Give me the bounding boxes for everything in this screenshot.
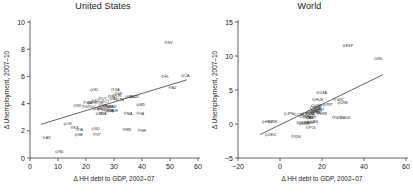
x-tick-label-0-1: 10 <box>54 163 62 170</box>
data-point: IL <box>82 105 88 109</box>
data-point-label: AUS <box>343 116 351 120</box>
data-point-label: MD <box>140 103 146 107</box>
y-tick-label-0-5: 10 <box>17 19 25 26</box>
data-point-label: HUN <box>315 98 323 102</box>
data-point-label: WI <box>77 104 81 108</box>
data-point: USA <box>317 91 328 95</box>
data-point: NE <box>75 133 83 137</box>
data-point-label: IDN <box>294 135 301 139</box>
data-point: AK <box>43 136 51 140</box>
data-point: MD <box>137 103 146 107</box>
data-point-label: ESP <box>346 44 354 48</box>
data-point-label: CO <box>134 95 140 99</box>
data-point: CA <box>182 74 190 78</box>
x-tick-label-1-2: 20 <box>318 163 326 170</box>
data-point-label: SRB <box>320 112 328 116</box>
data-point-label: VA <box>140 112 145 116</box>
data-point-label: HI <box>114 109 118 113</box>
y-tick-label-0-0: 0 <box>21 155 25 162</box>
data-point-label: CAN <box>310 120 318 124</box>
data-point: DEU <box>265 133 276 137</box>
data-point-label: IA <box>79 128 83 132</box>
y-tick-label-1-2: 5 <box>229 87 233 94</box>
data-point: NC <box>91 88 99 92</box>
data-point: WY <box>96 112 105 116</box>
x-tick-label-0-2: 20 <box>82 163 90 170</box>
data-point: VA <box>137 112 145 116</box>
data-point: MA <box>124 112 133 116</box>
data-point-label: AZ <box>172 86 177 90</box>
y-tick-label-1-0: −5 <box>225 155 233 162</box>
x-tick-label-0-4: 40 <box>138 163 146 170</box>
data-point-label: ISR <box>271 120 277 124</box>
scatter-plot-world: −200204060−5051015Δ HH debt to GDP, 2002… <box>206 0 413 196</box>
data-point: JPN <box>284 112 294 116</box>
data-point-label: NE <box>78 133 84 137</box>
x-tick-label-0-5: 50 <box>166 163 174 170</box>
data-point-label: WY <box>99 112 105 116</box>
y-tick-label-1-1: 0 <box>229 121 233 128</box>
y-tick-label-0-2: 4 <box>21 100 25 107</box>
data-point: SD <box>92 127 100 131</box>
data-point-label: FL <box>165 75 169 79</box>
data-point: VT <box>93 133 101 137</box>
data-point: NV <box>165 41 173 45</box>
x-tick-label-1-3: 40 <box>360 163 368 170</box>
data-point: FL <box>162 75 169 79</box>
y-tick-label-1-4: 15 <box>225 19 233 26</box>
figure-container: United States 01020304050600246810Δ HH d… <box>0 0 413 196</box>
x-tick-label-1-4: 60 <box>402 163 410 170</box>
data-point-label: DNK <box>341 101 349 105</box>
data-point: NH <box>138 129 146 133</box>
panel-united-states: United States 01020304050600246810Δ HH d… <box>0 0 206 196</box>
panel-world: World −200204060−5051015Δ HH debt to GDP… <box>206 0 413 196</box>
data-point: HUN <box>313 98 324 102</box>
data-point-label: NH <box>141 129 147 133</box>
data-point: MN <box>123 128 132 132</box>
x-tick-label-0-0: 0 <box>28 163 32 170</box>
y-tick-label-1-3: 10 <box>225 53 233 60</box>
data-point-label: NV <box>168 41 174 45</box>
data-point: ND <box>56 150 64 154</box>
x-tick-label-0-3: 30 <box>110 163 118 170</box>
data-point: KS <box>71 126 79 130</box>
data-point-label: TN <box>119 98 124 102</box>
x-tick-label-0-6: 60 <box>194 163 202 170</box>
data-point-label: USA <box>320 91 328 95</box>
data-point-label: PRT <box>326 103 334 107</box>
data-point-label: AK <box>46 136 51 140</box>
data-point-label: NC <box>93 88 99 92</box>
x-axis-title-0: Δ HH debt to GDP, 2002–07 <box>74 175 155 182</box>
y-tick-label-0-3: 6 <box>21 73 25 80</box>
data-point-label: IRL <box>377 57 383 61</box>
y-tick-label-0-4: 8 <box>21 46 25 53</box>
data-point: DNK <box>338 101 349 105</box>
data-point-label: DEU <box>268 133 276 137</box>
scatter-plot-united-states: 01020304050600246810Δ HH debt to GDP, 20… <box>0 0 206 196</box>
data-point-label: POL <box>309 126 316 130</box>
y-axis-title-1: Δ Unemployment, 2007–10 <box>211 50 219 129</box>
data-point: PRT <box>323 103 334 107</box>
regression-line-0 <box>41 80 187 124</box>
data-point-label: MN <box>126 128 132 132</box>
data-point: OK <box>64 122 73 126</box>
data-point: IA <box>77 128 84 132</box>
x-tick-label-1-0: −20 <box>232 163 244 170</box>
data-point-label: OK <box>67 122 73 126</box>
y-axis-title-0: Δ Unemployment, 2007–10 <box>3 50 11 129</box>
data-point: IRL <box>374 57 382 61</box>
data-point-label: JPN <box>287 112 294 116</box>
y-tick-label-0-1: 2 <box>21 127 25 134</box>
data-point-label: VT <box>96 133 101 137</box>
data-point-label: ND <box>58 150 64 154</box>
data-point-label: MA <box>127 112 133 116</box>
data-point: POL <box>306 126 316 130</box>
data-point-label: SD <box>95 127 100 131</box>
data-point: WI <box>74 104 81 108</box>
data-point-label: CA <box>184 74 190 78</box>
data-point: ESP <box>343 44 354 48</box>
x-tick-label-1-1: 0 <box>278 163 282 170</box>
data-point: AZ <box>169 86 177 90</box>
x-axis-title-1: Δ HH debt to GDP, 2002–07 <box>282 175 363 182</box>
data-point: IDN <box>292 135 301 139</box>
